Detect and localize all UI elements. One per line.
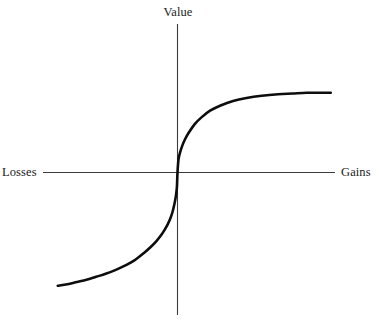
value-function-figure: y p Value Losses Gains xyxy=(0,0,379,320)
x-axis-label-losses: Losses xyxy=(2,166,37,179)
chart-background xyxy=(0,0,379,320)
x-axis-label-gains: Gains xyxy=(341,166,371,179)
y-axis-label-value: Value xyxy=(155,6,201,19)
value-function-chart xyxy=(0,0,379,320)
